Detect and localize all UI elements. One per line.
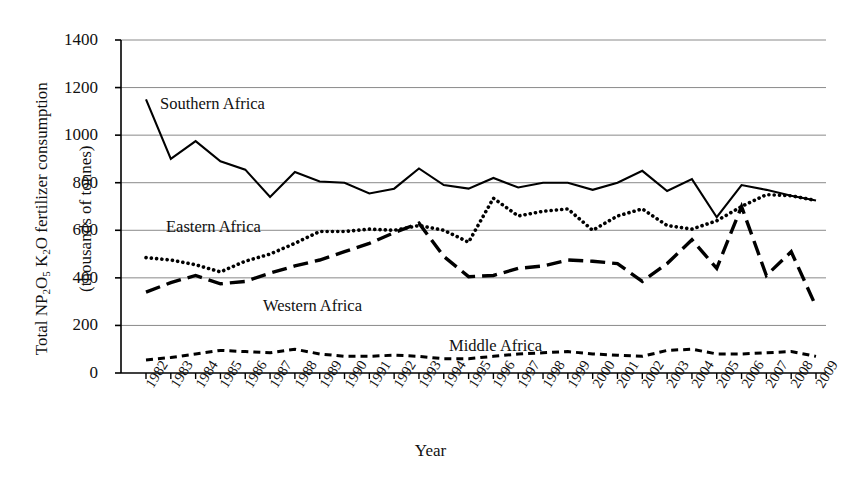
x-axis-title: Year: [0, 441, 861, 461]
series-label-middle-africa: Middle Africa: [449, 336, 542, 356]
plot-area: [0, 0, 861, 478]
series-label-western-africa: Western Africa: [263, 296, 362, 316]
chart-root: Total NP2O5 K2O fertilizer consumption (…: [0, 0, 861, 478]
series-line-southern-africa: [146, 99, 816, 217]
series-label-eastern-africa: Eastern Africa: [166, 217, 261, 237]
series-label-southern-africa: Southern Africa: [160, 94, 265, 114]
